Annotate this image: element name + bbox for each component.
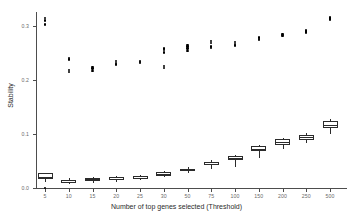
whisker-lower — [188, 171, 189, 173]
box-median-line — [323, 125, 338, 126]
whisker-lower — [116, 180, 117, 182]
box-median-line — [38, 177, 53, 178]
whisker-lower — [235, 160, 236, 168]
y-tick-label: 0.0 — [7, 185, 29, 191]
data-point — [44, 19, 46, 21]
box-median-line — [156, 174, 171, 175]
y-axis-line — [36, 12, 37, 189]
x-tick-label: 30 — [152, 193, 176, 199]
box-median-line — [299, 137, 314, 138]
whisker-lower — [283, 145, 284, 149]
x-tick-mark — [259, 189, 260, 192]
whisker-lower — [330, 128, 331, 134]
stability-boxplot-figure: 0.00.10.20.3 510152025305075100150200250… — [0, 0, 353, 223]
x-tick-mark — [45, 189, 46, 192]
x-tick-label: 200 — [271, 193, 295, 199]
x-tick-mark — [235, 189, 236, 192]
x-tick-label: 100 — [223, 193, 247, 199]
whisker-lower — [211, 165, 212, 168]
x-tick-mark — [140, 189, 141, 192]
whisker-lower — [140, 179, 141, 181]
x-tick-label: 250 — [294, 193, 318, 199]
x-tick-mark — [93, 189, 94, 192]
box-median-line — [228, 158, 243, 159]
x-tick-mark — [283, 189, 284, 192]
data-point — [91, 70, 93, 72]
plot-panel — [37, 12, 346, 188]
whisker-lower — [69, 183, 70, 184]
y-tick-mark — [33, 188, 36, 189]
box-median-line — [61, 182, 76, 183]
y-axis-title: Stability — [7, 66, 14, 126]
data-point — [68, 58, 70, 60]
data-point — [163, 51, 165, 53]
y-tick-label: 0.3 — [7, 23, 29, 29]
whisker-lower — [259, 151, 260, 158]
x-tick-mark — [116, 189, 117, 192]
data-point — [329, 18, 331, 20]
x-tick-mark — [188, 189, 189, 192]
x-tick-mark — [306, 189, 307, 192]
x-tick-mark — [330, 189, 331, 192]
x-axis-title: Number of top genes selected (Threshold) — [0, 203, 353, 210]
whisker-lower — [45, 179, 46, 181]
data-point — [186, 50, 188, 52]
box-median-line — [109, 179, 124, 180]
y-tick-mark — [33, 26, 36, 27]
x-tick-mark — [164, 189, 165, 192]
whisker-lower — [93, 181, 94, 183]
y-tick-label: 0.1 — [7, 131, 29, 137]
x-tick-label: 500 — [318, 193, 342, 199]
x-tick-label: 15 — [81, 193, 105, 199]
box-median-line — [251, 149, 266, 150]
x-tick-label: 20 — [104, 193, 128, 199]
x-tick-label: 150 — [247, 193, 271, 199]
x-tick-label: 50 — [176, 193, 200, 199]
x-tick-mark — [69, 189, 70, 192]
box-median-line — [275, 142, 290, 143]
x-tick-label: 75 — [199, 193, 223, 199]
data-point — [234, 44, 236, 46]
x-tick-mark — [211, 189, 212, 192]
box-median-line — [204, 164, 219, 165]
box-median-line — [85, 179, 100, 180]
box-median-line — [133, 178, 148, 179]
y-tick-mark — [33, 80, 36, 81]
box-median-line — [180, 170, 195, 171]
data-point — [68, 71, 70, 73]
whisker-lower — [306, 140, 307, 143]
x-tick-label: 5 — [33, 193, 57, 199]
y-tick-mark — [33, 134, 36, 135]
x-tick-label: 10 — [57, 193, 81, 199]
x-tick-label: 25 — [128, 193, 152, 199]
whisker-lower — [164, 176, 165, 178]
x-axis-line — [36, 188, 347, 189]
data-point — [44, 23, 46, 25]
